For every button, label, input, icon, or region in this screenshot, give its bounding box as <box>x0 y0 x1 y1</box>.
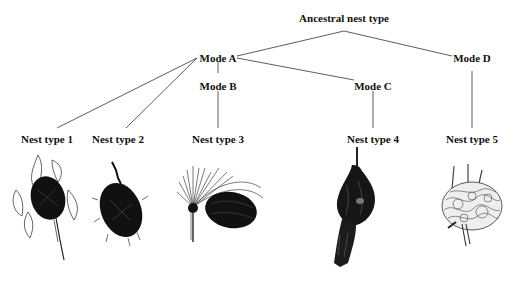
mode-d-label: Mode D <box>453 52 491 65</box>
nest-illustration-2 <box>88 160 153 250</box>
edge-modeA-modeC <box>237 58 354 80</box>
mode-a-label: Mode A <box>200 52 237 65</box>
nest-illustration-5 <box>438 162 508 252</box>
edge-root-modeD <box>344 31 452 56</box>
edge-modeA-nest1 <box>57 58 197 128</box>
mode-c-label: Mode C <box>354 80 392 93</box>
nest-illustration-3 <box>175 162 265 247</box>
nest-type-1-label: Nest type 1 <box>21 133 73 146</box>
mode-b-label: Mode B <box>200 80 237 93</box>
nest-illustration-4 <box>320 145 390 280</box>
edge-root-modeA <box>237 31 344 56</box>
nest-type-5-label: Nest type 5 <box>446 133 498 146</box>
nest-type-3-label: Nest type 3 <box>192 133 244 146</box>
nest-evolution-diagram: Ancestral nest type Mode A Mode B Mode C… <box>0 0 513 286</box>
nest-type-2-label: Nest type 2 <box>92 133 144 146</box>
edge-modeA-nest2 <box>126 58 197 128</box>
root-label: Ancestral nest type <box>299 12 389 25</box>
nest-illustration-1 <box>8 150 83 265</box>
